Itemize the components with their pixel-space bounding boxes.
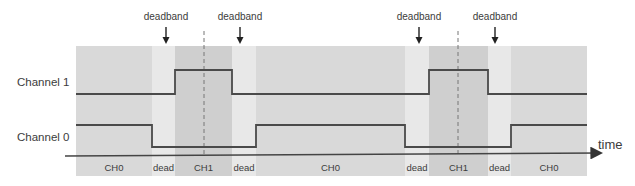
region-label: dead <box>489 162 510 173</box>
region-dead <box>405 46 429 176</box>
down-arrow-head-icon <box>492 37 499 44</box>
region-label: CH0 <box>321 162 340 173</box>
channel-0-label: Channel 0 <box>17 131 69 143</box>
down-arrow-head-icon <box>237 37 244 44</box>
region-label: CH0 <box>539 162 558 173</box>
deadband-annotations: deadbanddeadbanddeadbanddeadband <box>144 11 518 44</box>
down-arrow-head-icon <box>163 37 170 44</box>
region-dead <box>232 46 256 176</box>
region-labels: CH0deadCH1deadCH0deadCH1deadCH0 <box>104 162 558 173</box>
region-label: CH0 <box>104 162 123 173</box>
channel-labels: Channel 1 Channel 0 <box>17 76 69 143</box>
channel-1-label: Channel 1 <box>17 76 69 88</box>
down-arrow-head-icon <box>416 37 423 44</box>
region-label: dead <box>153 162 174 173</box>
region-ch0 <box>511 46 587 176</box>
region-ch0 <box>256 46 405 176</box>
deadband-timing-diagram: time Channel 1 Channel 0 deadbanddeadban… <box>0 0 635 186</box>
region-label: dead <box>233 162 254 173</box>
time-axis-label: time <box>598 137 623 152</box>
deadband-label: deadband <box>473 11 518 22</box>
deadband-label: deadband <box>218 11 263 22</box>
region-label: CH1 <box>449 162 468 173</box>
region-dead <box>152 46 175 176</box>
deadband-label: deadband <box>397 11 442 22</box>
region-label: CH1 <box>194 162 213 173</box>
time-regions <box>76 46 587 176</box>
region-label: dead <box>406 162 427 173</box>
region-dead <box>488 46 511 176</box>
deadband-label: deadband <box>144 11 189 22</box>
